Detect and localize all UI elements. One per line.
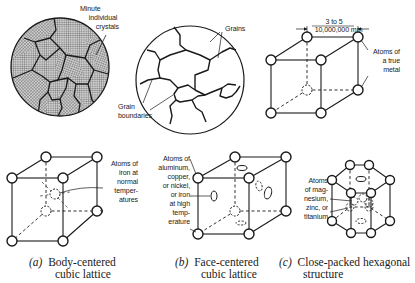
crystals-label: Minute individual crystals (80, 4, 119, 31)
true-metal-atoms-label: Atoms of a true metal (367, 47, 400, 74)
grain-boundaries-label: Grain boundaries (118, 102, 152, 120)
caption-hcp: (c) Close-packed hexagonal structure (279, 256, 410, 280)
fcc-atoms-label: Atoms of aluminum, copper, or nickel, or… (153, 154, 190, 226)
hcp-structure (328, 161, 395, 238)
caption-tag: (c) (279, 256, 292, 268)
caption-fcc: (b) Face-centered cubic lattice (175, 256, 259, 280)
caption-bcc: (a) Body-centered cubic lattice (29, 256, 116, 280)
fcc-lattice (190, 152, 291, 239)
figure-drawing (0, 0, 415, 283)
true-metal-cube (266, 26, 369, 118)
crystals-circle (10, 17, 110, 117)
caption-tag: (a) (29, 256, 42, 268)
crystal-structure-figure: Minute individual crystals Grains Grain … (0, 0, 415, 283)
dimension-label: 3 to 5 10,000,000 mm (315, 17, 354, 34)
grains-label: Grains (225, 24, 245, 33)
bcc-lattice (7, 152, 103, 246)
caption-tag: (b) (175, 256, 188, 268)
hcp-atoms-label: Atoms of mag- nesium, zinc, or titanium (295, 176, 328, 221)
bcc-atoms-label: Atoms of iron at normal temper- atures (105, 159, 138, 204)
